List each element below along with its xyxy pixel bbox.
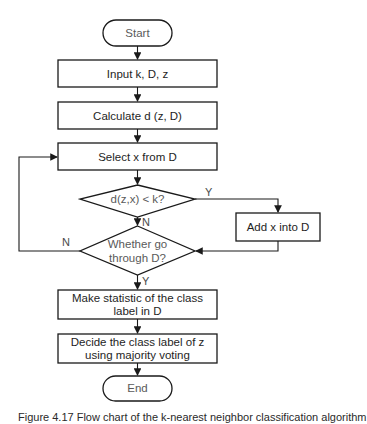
end-node: End [103,376,172,401]
add-node: Add x into D [236,213,320,241]
traverse-decision-node: Whether go through D? [80,226,195,275]
input-label: Input k, D, z [107,68,169,80]
input-node: Input k, D, z [58,60,217,87]
traverse-decision-line-1: Whether go [108,238,167,250]
figure-caption: Figure 4.17 Flow chart of the k-nearest … [18,410,348,424]
end-label: End [127,382,147,394]
no-label-distance: N [142,216,150,228]
select-label: Select x from D [98,151,177,163]
decide-node: Decide the class label of z using majori… [58,334,217,363]
calculate-node: Calculate d (z, D) [58,102,217,129]
arrow-traverse-no-to-select [19,157,80,251]
arrow-add-to-traverse [196,241,278,251]
arrow-decision-yes-to-add [195,199,278,212]
statistic-line-1: Make statistic of the class [72,292,203,304]
distance-decision-node: d(z,x) < k? [80,185,195,217]
calculate-label: Calculate d (z, D) [93,110,182,122]
yes-label-distance: Y [205,186,213,198]
select-node: Select x from D [58,143,217,170]
decide-line-2: using majority voting [85,349,190,361]
yes-label-traverse: Y [142,275,150,287]
distance-decision-label: d(z,x) < k? [110,193,164,205]
traverse-decision-line-2: through D? [109,252,166,264]
start-node: Start [103,20,172,46]
decide-line-1: Decide the class label of z [71,336,205,348]
statistic-line-2: label in D [114,305,162,317]
start-label: Start [125,27,150,39]
no-label-traverse: N [62,236,70,248]
add-label: Add x into D [247,221,310,233]
statistic-node: Make statistic of the class label in D [58,290,217,319]
